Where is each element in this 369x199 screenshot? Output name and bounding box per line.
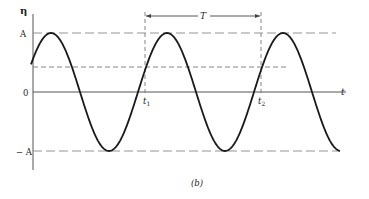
- t2-label: t2: [258, 96, 265, 107]
- amplitude-positive-label: A: [19, 29, 27, 39]
- y-axis-label: η: [20, 5, 27, 16]
- x-axis-label: t: [341, 87, 345, 97]
- arrowhead-left-icon: [146, 14, 151, 18]
- zero-label: 0: [23, 88, 28, 98]
- arrowhead-right-icon: [255, 14, 260, 18]
- figure-caption: (b): [191, 178, 203, 188]
- wave-figure: η t A 0 − A t1 t2 T (b): [0, 0, 369, 199]
- t1-label: t1: [143, 96, 150, 107]
- amplitude-negative-label: − A: [16, 147, 33, 157]
- period-label: T: [200, 11, 207, 21]
- sine-wave-diagram: η t A 0 − A t1 t2 T (b): [0, 0, 369, 199]
